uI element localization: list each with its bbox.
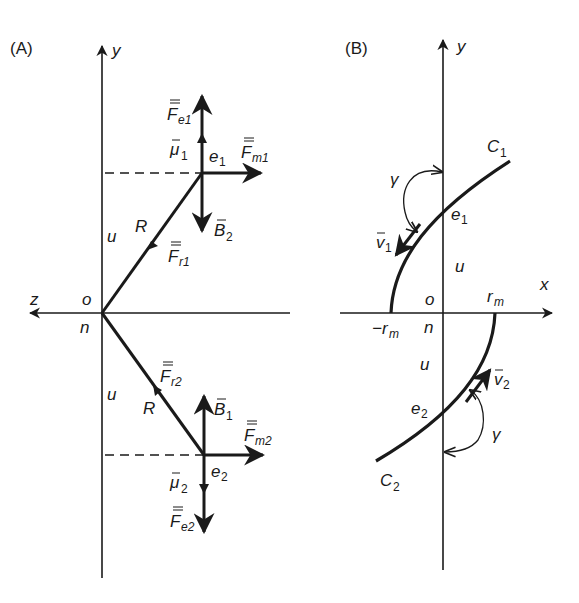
svg-text:C: C (487, 137, 500, 156)
svg-text:r1: r1 (179, 255, 190, 269)
fe1-label: F e1 (167, 100, 191, 127)
e1-label: e 1 (209, 147, 226, 169)
svg-text:e: e (209, 147, 218, 166)
mu2-label: μ 2 (169, 473, 188, 496)
v1-label: v 1 (376, 233, 392, 255)
svg-text:2: 2 (221, 470, 228, 484)
svg-text:−r: −r (372, 319, 389, 338)
distance-u-lower: u (107, 385, 117, 404)
fe2-label: F e2 (170, 507, 195, 534)
svg-text:e: e (411, 399, 420, 418)
svg-text:μ: μ (169, 140, 180, 159)
distance-r-upper: R (135, 217, 147, 236)
svg-text:B: B (214, 400, 225, 419)
x-axis-label: x (539, 275, 549, 294)
fr2-label: F r2 (160, 362, 182, 389)
v2-label: v 2 (494, 370, 510, 392)
v1-vector (396, 224, 420, 255)
origin-n-label: n (424, 318, 433, 337)
mu1-arrowhead-icon (197, 133, 207, 143)
curve-c1-label: C 1 (487, 137, 507, 160)
svg-text:m2: m2 (255, 434, 272, 448)
gamma-arc-lower (445, 390, 483, 452)
gamma-arc-upper (404, 171, 442, 232)
svg-text:m: m (389, 327, 399, 341)
svg-text:r2: r2 (171, 375, 182, 389)
svg-text:1: 1 (226, 409, 233, 423)
svg-text:r: r (487, 287, 494, 306)
y-axis-label: y (456, 37, 467, 56)
distance-u-upper: u (107, 227, 117, 246)
svg-text:C: C (380, 471, 393, 490)
panel-b: (B) y x o n r m −r m C 1 C 2 (340, 37, 552, 570)
fm2-label: F m2 (244, 421, 272, 448)
panel-a: (A) y z o n u u R R F e1 (10, 39, 290, 578)
tick-r-m: r m (487, 287, 504, 309)
svg-text:2: 2 (226, 230, 233, 244)
svg-text:1: 1 (461, 213, 468, 227)
svg-text:B: B (214, 221, 225, 240)
fm1-label: F m1 (241, 138, 269, 165)
mu2-arrowhead-icon (199, 484, 209, 494)
svg-text:1: 1 (181, 149, 188, 163)
svg-text:1: 1 (385, 241, 392, 255)
distance-r-lower: R (143, 399, 155, 418)
svg-text:e: e (451, 205, 460, 224)
svg-text:e1: e1 (178, 113, 191, 127)
svg-text:2: 2 (503, 378, 510, 392)
e2-label: e 2 (211, 462, 228, 484)
origin-n-label: n (80, 318, 89, 337)
mu1-label: μ 1 (169, 140, 188, 163)
svg-text:2: 2 (181, 482, 188, 496)
radius-line-lower (102, 313, 204, 455)
y-axis-label: y (111, 41, 122, 60)
svg-text:e2: e2 (181, 520, 195, 534)
b1-label: B 1 (214, 399, 233, 423)
svg-text:m: m (494, 295, 504, 309)
tick-neg-r-m: −r m (372, 319, 399, 341)
fr1-label: F r1 (168, 242, 190, 269)
svg-text:2: 2 (393, 480, 400, 494)
svg-text:m1: m1 (252, 151, 269, 165)
panel-b-label: (B) (345, 39, 368, 58)
z-axis-label: z (29, 290, 39, 309)
curve-c2-label: C 2 (380, 471, 400, 494)
svg-text:1: 1 (500, 146, 507, 160)
figure-canvas: (A) y z o n u u R R F e1 (0, 0, 579, 603)
gamma-label-lower: γ (492, 425, 502, 444)
svg-text:2: 2 (421, 407, 428, 421)
origin-o-label: o (425, 290, 434, 309)
gamma-label-upper: γ (390, 170, 400, 189)
svg-text:e: e (211, 462, 220, 481)
distance-u-lower: u (420, 355, 430, 374)
origin-o-label: o (82, 290, 91, 309)
svg-text:μ: μ (169, 473, 180, 492)
svg-text:1: 1 (219, 155, 226, 169)
distance-u-upper: u (455, 257, 465, 276)
e2-label: e 2 (411, 399, 428, 421)
e1-label: e 1 (451, 205, 468, 227)
b2-label: B 2 (214, 220, 233, 244)
panel-a-label: (A) (10, 39, 33, 58)
